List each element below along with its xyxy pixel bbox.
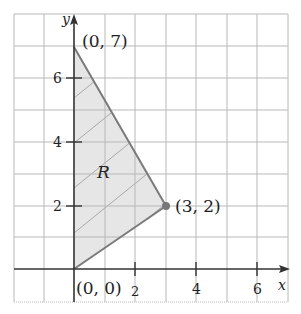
y-axis-label: y	[61, 11, 71, 27]
vertex-label-3-2: (3, 2)	[175, 196, 221, 216]
vertex-dot-3-2	[162, 202, 170, 210]
grid	[14, 14, 288, 302]
y-tick-6: 6	[53, 70, 62, 86]
region-label: R	[96, 162, 110, 182]
region-grid-overlay	[14, 14, 288, 302]
x-tick-2: 2	[131, 284, 139, 299]
axes	[14, 20, 284, 302]
x-axis-label: x	[278, 277, 286, 293]
vertex-label-0-7: (0, 7)	[82, 31, 128, 51]
region-diagram: y x 2 4 6 2 4 6 (0, 0) (0, 7) (3, 2) R	[0, 0, 301, 314]
y-tick-4: 4	[53, 134, 62, 150]
y-tick-2: 2	[53, 198, 62, 214]
x-tick-6: 6	[253, 281, 262, 297]
region-r	[74, 47, 166, 269]
x-tick-4: 4	[192, 281, 201, 297]
vertex-label-0-0: (0, 0)	[76, 278, 122, 298]
